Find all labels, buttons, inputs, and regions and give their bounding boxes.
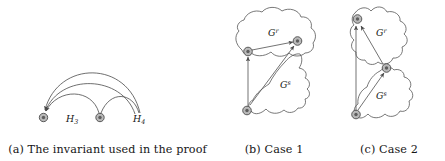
panel-b-caption: (b) Case 1	[215, 143, 333, 157]
node-right	[293, 37, 302, 46]
case2-graph-svg: Gr Gs	[333, 0, 445, 130]
region-label-gr: Gr	[376, 27, 388, 38]
region-label-gs: Gs	[280, 79, 292, 90]
node-middle	[382, 64, 391, 73]
panel-a: H3 H4 (a) The invariant used in the proo…	[0, 0, 215, 161]
region-label-gs: Gs	[376, 90, 388, 101]
panel-c-artwork: Gr Gs	[333, 0, 445, 130]
label-h4: H4	[132, 113, 145, 126]
arc-second	[46, 84, 136, 114]
region-label-gr: Gr	[268, 27, 280, 38]
edge-left-to-right	[252, 42, 293, 50]
arc-diagram-svg: H3 H4	[0, 0, 215, 130]
case1-graph-svg: Gr Gs	[215, 0, 333, 130]
figure-row: H3 H4 (a) The invariant used in the proo…	[0, 0, 445, 161]
node-left	[39, 113, 47, 121]
arc-h3	[46, 94, 99, 113]
node-left	[244, 47, 253, 56]
panel-a-caption: (a) The invariant used in the proof	[0, 143, 215, 157]
node-bottom	[243, 106, 252, 115]
panel-c: Gr Gs (c) Case 2	[333, 0, 445, 161]
node-bottom	[352, 110, 361, 119]
edge-bottom-to-right	[250, 46, 294, 105]
panel-c-caption: (c) Case 2	[333, 143, 445, 157]
node-middle	[96, 113, 104, 121]
panel-b: Gr Gs (b) Case 1	[215, 0, 333, 161]
label-h3: H3	[65, 113, 78, 126]
panel-b-artwork: Gr Gs	[215, 0, 333, 130]
panel-a-artwork: H3 H4	[0, 0, 215, 130]
node-top	[353, 15, 362, 24]
